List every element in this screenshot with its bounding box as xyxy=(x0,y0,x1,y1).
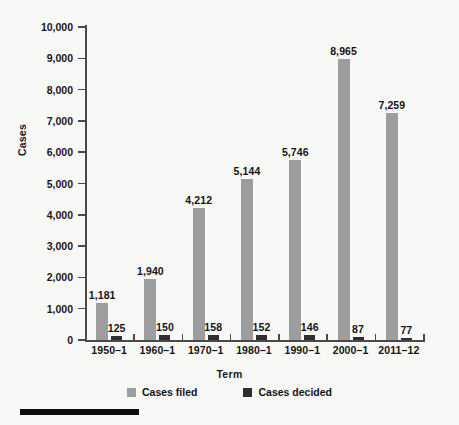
bar-value-label-filed: 7,259 xyxy=(367,99,417,111)
x-axis-tick xyxy=(326,334,328,341)
y-axis-tick xyxy=(78,120,85,122)
bar-value-label-filed: 4,212 xyxy=(174,194,224,206)
bar-value-label-decided: 87 xyxy=(338,323,378,335)
legend-swatch-icon xyxy=(127,388,136,397)
legend-item: Cases filed xyxy=(127,386,197,398)
y-axis-tick-label: 6,000 xyxy=(0,146,73,158)
bar-cases-decided xyxy=(256,335,267,340)
y-axis-tick xyxy=(78,245,85,247)
x-axis-tick-label: 1990–1 xyxy=(278,344,326,356)
y-axis-tick-label: 7,000 xyxy=(0,115,73,127)
bar-cases-decided xyxy=(159,335,170,340)
bar-value-label-decided: 146 xyxy=(290,321,330,333)
y-axis-tick xyxy=(78,308,85,310)
y-axis-tick-label: 8,000 xyxy=(0,84,73,96)
bar-cases-decided xyxy=(401,338,412,341)
y-axis-tick-label: 10,000 xyxy=(0,21,73,33)
x-axis-tick xyxy=(278,334,280,341)
x-axis-tick xyxy=(133,334,135,341)
bar-cases-decided xyxy=(353,337,364,340)
bar-value-label-decided: 152 xyxy=(242,321,282,333)
y-axis-tick xyxy=(78,183,85,185)
x-axis-tick-label: 1980–1 xyxy=(230,344,278,356)
x-axis-tick xyxy=(423,334,425,341)
bar-cases-decided xyxy=(111,336,122,340)
y-axis-tick xyxy=(78,277,85,279)
y-axis-tick-label: 5,000 xyxy=(0,178,73,190)
bar-value-label-filed: 5,144 xyxy=(222,165,272,177)
y-axis-tick xyxy=(78,89,85,91)
y-axis-tick-label: 9,000 xyxy=(0,52,73,64)
x-axis-title: Term xyxy=(0,368,459,380)
y-axis-tick-label: 3,000 xyxy=(0,240,73,252)
y-axis-tick-label: 0 xyxy=(0,334,73,346)
y-axis-tick xyxy=(78,58,85,60)
bar-value-label-decided: 158 xyxy=(193,321,233,333)
bar-value-label-filed: 1,940 xyxy=(125,265,175,277)
chart-legend: Cases filedCases decided xyxy=(0,386,459,398)
x-axis-tick-label: 1970–1 xyxy=(182,344,230,356)
y-axis-tick xyxy=(78,26,85,28)
x-axis-tick-label: 1950–1 xyxy=(85,344,133,356)
bar-cases-decided xyxy=(208,335,219,340)
legend-swatch-icon xyxy=(243,388,252,397)
bar-cases-filed xyxy=(386,113,398,340)
bar-value-label-filed: 5,746 xyxy=(270,146,320,158)
bar-value-label-filed: 8,965 xyxy=(319,45,369,57)
bar-chart-figure: Cases Term 10,0009,0008,0007,0006,0005,0… xyxy=(0,0,459,425)
bar-value-label-decided: 125 xyxy=(97,322,137,334)
x-axis-tick xyxy=(375,334,377,341)
x-axis-tick-label: 1960–1 xyxy=(133,344,181,356)
y-axis-tick xyxy=(78,151,85,153)
bar-value-label-filed: 1,181 xyxy=(77,289,127,301)
legend-label: Cases filed xyxy=(142,386,197,398)
y-axis-tick xyxy=(78,339,85,341)
bottom-rule xyxy=(20,409,139,415)
bar-cases-filed xyxy=(241,179,253,340)
bar-value-label-decided: 77 xyxy=(386,324,426,336)
x-axis-tick-label: 2011–12 xyxy=(375,344,423,356)
x-axis-tick xyxy=(230,334,232,341)
bar-cases-filed xyxy=(289,160,301,340)
legend-item: Cases decided xyxy=(243,386,332,398)
x-axis-tick-label: 2000–1 xyxy=(326,344,374,356)
y-axis-tick-label: 2,000 xyxy=(0,271,73,283)
bar-cases-filed xyxy=(338,59,350,340)
bar-value-label-decided: 150 xyxy=(145,321,185,333)
y-axis-tick xyxy=(78,214,85,216)
x-axis-tick xyxy=(182,334,184,341)
x-axis-tick xyxy=(85,334,87,341)
legend-label: Cases decided xyxy=(258,386,332,398)
y-axis-tick-label: 1,000 xyxy=(0,303,73,315)
bar-cases-decided xyxy=(304,335,315,340)
y-axis-tick-label: 4,000 xyxy=(0,209,73,221)
